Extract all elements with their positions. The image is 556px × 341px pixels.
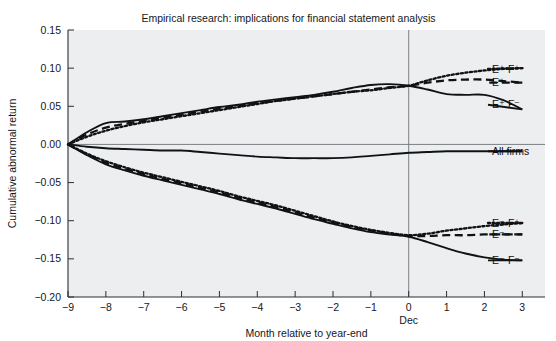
y-tick-label: 0.15 [41,24,62,36]
x-tick-label: −1 [365,301,377,313]
legend-label: E⁺ [492,76,505,88]
x-tick-label: −5 [213,301,225,313]
y-tick-label: −0.10 [34,214,61,226]
y-tick-label: −0.05 [34,176,61,188]
legend-label: E⁺ F⁻ [492,98,520,110]
plot-area [68,30,545,297]
x-tick-label: −9 [62,301,74,313]
legend-label: All firms [492,145,529,157]
y-tick-label: 0.00 [41,138,62,150]
x-tick-label: 2 [482,301,488,313]
x-tick-label: −2 [327,301,339,313]
legend-label: E⁻ F⁺ [492,217,520,229]
x-axis-label: Month relative to year-end [246,327,368,339]
x-tick-label: 1 [444,301,450,313]
chart-figure: 0.150.100.050.00−0.05−0.10−0.15−0.20−9−8… [0,0,556,341]
plot-background [68,30,545,297]
x-tick-label: −7 [138,301,150,313]
dec-annotation: Dec [399,314,418,326]
x-tick-label: −3 [289,301,301,313]
y-axis-label: Cumulative abnormal return [6,99,18,229]
x-tick-label: −8 [100,301,112,313]
chart-title: Empirical research: implications for fin… [141,12,435,24]
x-tick-label: −6 [176,301,188,313]
y-tick-label: −0.20 [34,291,61,303]
x-tick-label: 0 [406,301,412,313]
legend-label: E⁻ F⁻ [492,254,520,266]
y-tick-label: −0.15 [34,252,61,264]
x-tick-label: 3 [519,301,525,313]
legend-label: E⁻ [492,228,505,240]
legend-label: E⁺ F⁺ [492,63,520,75]
y-tick-label: 0.10 [41,62,62,74]
x-tick-label: −4 [251,301,263,313]
chart-canvas: 0.150.100.050.00−0.05−0.10−0.15−0.20−9−8… [0,0,556,341]
y-tick-label: 0.05 [41,100,62,112]
